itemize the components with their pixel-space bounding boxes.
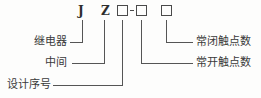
leader-lines: [53, 20, 193, 85]
label-normally-open-contacts: 常开触点数: [196, 57, 251, 69]
leader-line-nc-contacts: [166, 20, 193, 42]
code-letter-j: J: [78, 5, 84, 17]
leader-line-design-no: [53, 20, 122, 85]
code-box-design-no: [117, 5, 128, 16]
code-box-no-contacts: [136, 5, 147, 16]
label-design-serial-number: 设计序号: [7, 79, 51, 91]
code-hyphen-separator: [130, 10, 134, 11]
label-intermediate: 中间: [45, 57, 67, 69]
label-normally-closed-contacts: 常闭触点数: [196, 36, 251, 48]
label-relay: 继电器: [34, 36, 67, 48]
code-letter-z: Z: [101, 5, 110, 17]
leader-line-relay: [70, 20, 82, 42]
code-box-nc-contacts: [161, 5, 172, 16]
